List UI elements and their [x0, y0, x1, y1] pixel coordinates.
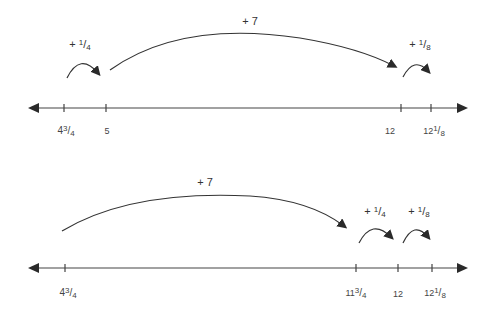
jump-label-seven: + 7 — [197, 176, 213, 188]
jump-label-quarter: + 1/4 — [69, 38, 90, 52]
jump-label-eighth: + 1/8 — [409, 38, 430, 52]
jump-arrow-seven — [110, 33, 394, 70]
jump-arrow-quarter — [67, 64, 98, 78]
jump-arrow-eighth — [403, 65, 428, 77]
tick-label: 5 — [104, 126, 109, 136]
tick-label: 12 — [393, 289, 403, 299]
tick-label: 113/4 — [345, 286, 366, 300]
jump-label-eighth: + 1/8 — [408, 205, 429, 219]
jump-label-quarter: + 1/4 — [364, 205, 385, 219]
right-arrow-icon — [457, 103, 468, 113]
jump-arrow-eighth — [403, 230, 428, 243]
tick-label: 43/4 — [57, 124, 74, 138]
right-arrow-icon — [457, 263, 468, 273]
tick-label: 121/8 — [423, 124, 445, 138]
left-arrow-icon — [28, 103, 39, 113]
jump-arrow-seven — [62, 195, 344, 231]
tick-label: 121/8 — [424, 286, 446, 300]
tick-label: 12 — [385, 126, 395, 136]
jump-arrow-quarter — [359, 229, 391, 243]
number-line-2 — [28, 195, 468, 273]
left-arrow-icon — [28, 263, 39, 273]
tick-label: 43/4 — [59, 286, 76, 300]
jump-label-seven: + 7 — [242, 15, 258, 27]
